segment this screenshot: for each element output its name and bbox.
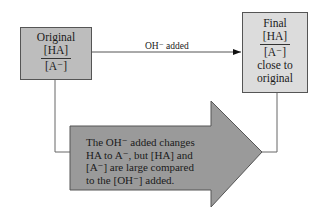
original-numerator: [HA] <box>41 44 71 58</box>
explanation-line-3: [A⁻] are large compared <box>86 161 216 174</box>
final-denominator: [A⁻] <box>260 44 290 59</box>
original-ratio: [HA] [A⁻] <box>41 44 71 73</box>
original-title: Original <box>21 31 91 44</box>
final-numerator: [HA] <box>260 30 290 44</box>
explanation-line-2: HA to A⁻, but [HA] and <box>86 149 216 162</box>
explanation-line-4: to the [OH⁻] added. <box>86 174 216 187</box>
right-connector <box>262 93 277 152</box>
oh-added-label: OH⁻ added <box>145 40 189 51</box>
explanation-line-1: The OH⁻ added changes <box>86 136 216 149</box>
final-state-box: Final [HA] [A⁻] close to original <box>242 12 308 93</box>
original-state-box: Original [HA] [A⁻] <box>20 27 92 80</box>
original-denominator: [A⁻] <box>41 58 71 73</box>
left-connector <box>55 80 70 152</box>
final-ratio: [HA] [A⁻] <box>260 30 290 59</box>
final-title: Final <box>243 17 307 30</box>
explanation-text: The OH⁻ added changes HA to A⁻, but [HA]… <box>86 136 216 186</box>
final-note-line1: close to <box>243 59 307 72</box>
final-note-line2: original <box>243 72 307 85</box>
